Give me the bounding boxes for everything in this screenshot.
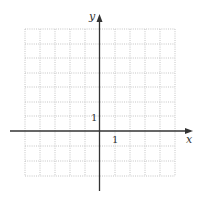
x-tick-label: 1 (112, 134, 118, 145)
y-axis-arrow-icon (97, 14, 103, 22)
coordinate-grid: x y 1 1 (0, 0, 204, 201)
x-axis-label: x (186, 133, 193, 146)
y-tick-label: 1 (91, 112, 97, 123)
x-axis (10, 128, 193, 134)
y-axis-label: y (88, 10, 96, 23)
y-axis (97, 14, 103, 191)
